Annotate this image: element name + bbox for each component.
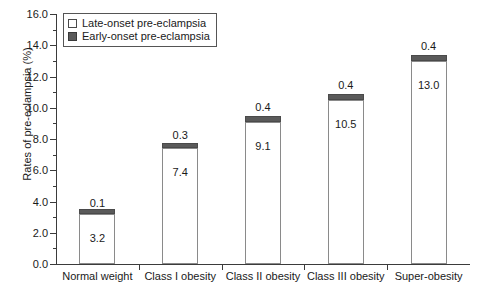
y-tick-major <box>50 233 56 234</box>
y-tick-minor <box>53 30 56 31</box>
bar-value-label-late-onset: 10.5 <box>328 118 364 130</box>
y-tick-minor <box>53 123 56 124</box>
bar-group[interactable]: 9.10.4 <box>245 14 281 264</box>
legend-label-early-onset: Early-onset pre-eclampsia <box>82 30 210 43</box>
y-tick-minor <box>53 155 56 156</box>
legend: Late-onset pre-eclampsia Early-onset pre… <box>63 13 217 47</box>
plot-area: 0.02.04.06.08.010.012.014.016.0 3.20.17.… <box>56 14 470 264</box>
y-tick-major <box>50 77 56 78</box>
y-tick-label: 8.0 <box>33 133 48 145</box>
x-tick <box>222 264 223 270</box>
y-tick-label: 16.0 <box>27 8 48 20</box>
y-tick-label: 10.0 <box>27 102 48 114</box>
category-label: Class III obesity <box>307 270 385 282</box>
legend-item-late-onset: Late-onset pre-eclampsia <box>68 17 210 30</box>
y-tick-label: 0.0 <box>33 258 48 270</box>
bar-value-label-late-onset: 9.1 <box>245 140 281 152</box>
open-square-icon <box>68 19 77 28</box>
bar-segment-early-onset[interactable] <box>245 116 281 122</box>
bar-segment-early-onset[interactable] <box>411 55 447 61</box>
category-label: Class II obesity <box>226 270 301 282</box>
bar-segment-early-onset[interactable] <box>79 209 115 214</box>
y-tick-minor <box>53 217 56 218</box>
x-tick <box>304 264 305 270</box>
y-tick-label: 4.0 <box>33 196 48 208</box>
y-tick-label: 12.0 <box>27 71 48 83</box>
y-tick-major <box>50 45 56 46</box>
y-axis-title: Rates of pre-eclampsia (%) <box>21 0 33 229</box>
bar-value-label-early-onset: 0.1 <box>79 197 115 209</box>
pre-eclampsia-rates-bar-chart: Rates of pre-eclampsia (%) 0.02.04.06.08… <box>0 0 480 294</box>
bar-value-label-late-onset: 13.0 <box>411 79 447 91</box>
bar-value-label-early-onset: 0.4 <box>245 101 281 113</box>
filled-square-icon <box>68 32 77 41</box>
y-axis-line <box>56 14 57 264</box>
bar-group[interactable]: 13.00.4 <box>411 14 447 264</box>
y-tick-minor <box>53 61 56 62</box>
y-tick-major <box>50 108 56 109</box>
x-axis-line <box>56 264 470 265</box>
y-tick-label: 14.0 <box>27 39 48 51</box>
category-label: Super-obesity <box>395 270 463 282</box>
y-tick-major <box>50 264 56 265</box>
y-tick-major <box>50 170 56 171</box>
x-tick <box>387 264 388 270</box>
y-tick-minor <box>53 92 56 93</box>
y-tick-label: 2.0 <box>33 227 48 239</box>
legend-label-late-onset: Late-onset pre-eclampsia <box>82 17 206 30</box>
category-label: Normal weight <box>62 270 132 282</box>
bar-group[interactable]: 10.50.4 <box>328 14 364 264</box>
bar-segment-early-onset[interactable] <box>328 94 364 100</box>
bar-value-label-late-onset: 7.4 <box>162 166 198 178</box>
x-tick <box>139 264 140 270</box>
y-tick-minor <box>53 248 56 249</box>
y-tick-major <box>50 14 56 15</box>
y-tick-minor <box>53 186 56 187</box>
bar-segment-late-onset[interactable] <box>411 61 447 264</box>
bar-segment-early-onset[interactable] <box>162 143 198 148</box>
bar-group[interactable]: 7.40.3 <box>162 14 198 264</box>
bar-value-label-early-onset: 0.4 <box>411 40 447 52</box>
bar-value-label-early-onset: 0.3 <box>162 129 198 141</box>
bar-value-label-early-onset: 0.4 <box>328 79 364 91</box>
y-tick-label: 6.0 <box>33 164 48 176</box>
y-tick-major <box>50 139 56 140</box>
legend-item-early-onset: Early-onset pre-eclampsia <box>68 30 210 43</box>
bar-value-label-late-onset: 3.2 <box>79 232 115 244</box>
y-tick-major <box>50 202 56 203</box>
bar-group[interactable]: 3.20.1 <box>79 14 115 264</box>
category-label: Class I obesity <box>144 270 216 282</box>
